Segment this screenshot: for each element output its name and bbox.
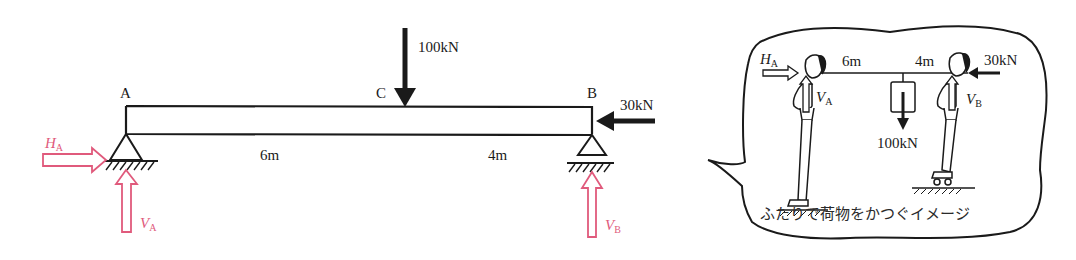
load-horizontal-label: 30kN: [620, 98, 653, 113]
reaction-vb-label: VB: [605, 218, 621, 235]
illustration-load-horizontal: 30kN: [984, 53, 1017, 68]
load-30kn-arrow-icon: [596, 111, 655, 131]
reaction-va-label: VA: [140, 216, 156, 233]
reaction-ha-label: HA: [45, 136, 63, 153]
reaction-vb-arrow-icon: [582, 172, 602, 237]
illustration-vb-label: VB: [966, 92, 982, 109]
support-a-pin-icon: [103, 134, 158, 170]
illustration-load-vertical: 100kN: [877, 136, 918, 151]
illustration-span-right: 4m: [915, 54, 934, 69]
point-a-label: A: [120, 86, 131, 101]
point-c-label: C: [376, 86, 386, 101]
span-left-label: 6m: [260, 148, 279, 163]
illustration-va-label: VA: [816, 90, 832, 107]
load-vertical-label: 100kN: [418, 40, 459, 55]
reaction-va-arrow-icon: [116, 170, 137, 232]
beam: [126, 106, 592, 135]
illustration-span-left: 6m: [842, 54, 861, 69]
illustration-ha-label: HA: [760, 52, 778, 69]
span-right-label: 4m: [488, 148, 507, 163]
point-b-label: B: [587, 86, 597, 101]
support-b-roller-icon: [567, 135, 614, 172]
illustration-caption: ふたりで荷物をかつぐイメージ: [760, 202, 970, 223]
load-100kn-arrow-icon: [394, 28, 416, 107]
